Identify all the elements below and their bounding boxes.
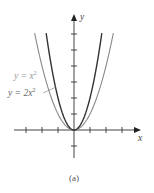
y-axis-label: y [79,12,85,22]
y-axis-arrow-icon [71,14,77,21]
label-y-equals-x-squared: y = x2 [13,69,37,81]
chart-svg: y = x2 y = 2x2 x y (a) [0,0,154,193]
label-y-equals-2x-squared: y = 2x2 [7,86,36,98]
figure-caption: (a) [69,173,79,183]
parabola-figure: y = x2 y = 2x2 x y (a) [0,0,154,193]
x-axis-label: x [137,133,143,143]
